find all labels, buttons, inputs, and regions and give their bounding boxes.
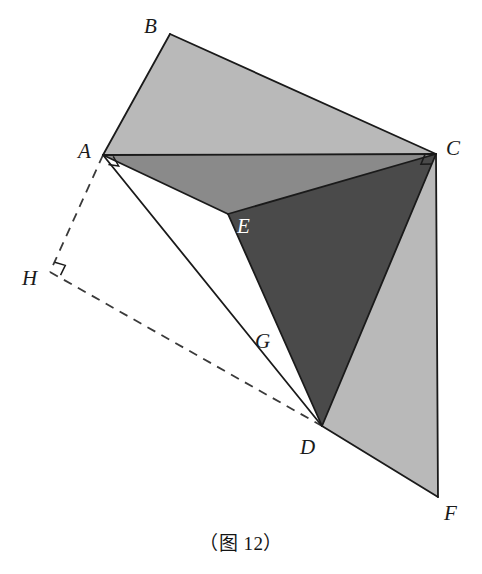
vertex-label-b: B [144,16,157,37]
figure-caption: （图 12） [0,528,482,555]
vertex-label-c: C [446,138,460,159]
vertex-label-h: H [22,268,37,289]
geometry-canvas [0,0,482,574]
edge-AC [103,154,436,155]
vertex-label-a: A [78,141,91,162]
vertex-label-g: G [255,331,270,352]
vertex-label-d: D [300,437,315,458]
vertex-label-f: F [444,503,457,524]
geometry-figure: A B C D E F G H （图 12） [0,0,482,574]
edge-AH-dashed [50,155,103,272]
right-angle-at-H [55,262,66,275]
region-quad-abc-light [103,34,436,155]
vertex-label-e: E [237,216,250,237]
